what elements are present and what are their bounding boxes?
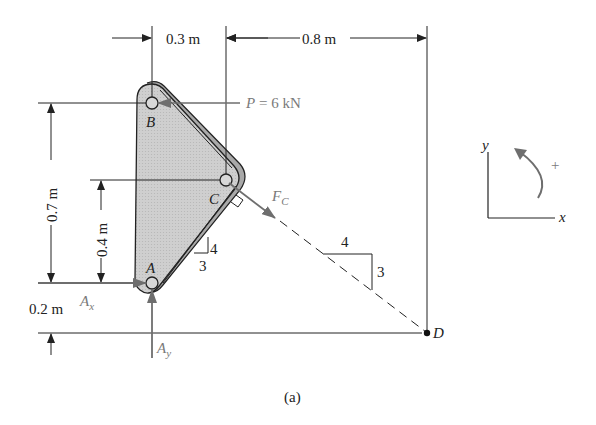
svg-text:0.3 m: 0.3 m	[166, 31, 201, 47]
svg-text:0.8 m: 0.8 m	[302, 31, 337, 47]
dim-0-2m: 0.2 m	[29, 301, 64, 355]
pin-a	[146, 277, 158, 289]
svg-text:0.4 m: 0.4 m	[94, 223, 110, 258]
svg-text:3: 3	[199, 258, 207, 274]
dim-0-4m: 0.4 m	[94, 181, 110, 282]
svg-text:Ax: Ax	[79, 293, 94, 312]
svg-text:Ay: Ay	[156, 340, 171, 359]
rotation-sign: +	[551, 157, 559, 173]
rotation-arrow-icon	[520, 152, 542, 198]
label-b: B	[146, 114, 155, 130]
label-c: C	[209, 191, 220, 207]
line-of-action	[280, 221, 426, 332]
force-ay: Ay	[152, 290, 171, 359]
svg-text:0.7 m: 0.7 m	[44, 188, 60, 223]
svg-text:0.2 m: 0.2 m	[29, 301, 64, 317]
y-axis-label: y	[480, 137, 489, 153]
force-fc: FC	[229, 183, 426, 332]
svg-text:4: 4	[341, 234, 349, 250]
dim-0-7m: 0.7 m	[44, 104, 60, 282]
x-axis-label: x	[558, 209, 566, 225]
rotation-arrowhead-icon	[514, 148, 527, 160]
svg-text:FC: FC	[271, 188, 289, 207]
free-body-diagram: 0.3 m 0.8 m 0.7 m 0.4 m 0.2 m P = 6 kN A…	[0, 0, 596, 425]
svg-text:3: 3	[377, 264, 385, 280]
label-a: A	[145, 260, 156, 276]
dim-0-3m: 0.3 m	[112, 31, 268, 47]
coordinate-axes: y x +	[480, 137, 566, 225]
force-p-label: P = 6 kN	[245, 95, 301, 111]
dim-0-8m: 0.8 m	[227, 31, 426, 47]
svg-text:4: 4	[210, 241, 218, 257]
svg-text:D: D	[432, 325, 444, 341]
slope-triangle-line: 4 3	[323, 234, 385, 290]
figure-caption: (a)	[284, 389, 301, 406]
pin-b	[146, 97, 158, 109]
